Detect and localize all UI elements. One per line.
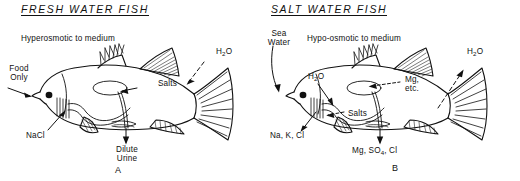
label-mg-so4-cl: Mg, SO4, Cl [352, 146, 397, 155]
osmoregulation-figure: FRESH WATER FISH [0, 0, 520, 181]
panel-letter-b: B [392, 163, 398, 173]
label-dilute-urine-line2: Urine [117, 154, 137, 163]
label-dilute-urine-line1: Dilute [116, 145, 138, 154]
label-sea-water-line1: Sea [271, 29, 286, 38]
label-osmotic-status-fresh: Hyperosmotic to medium [21, 34, 115, 43]
label-dilute-urine: Dilute Urine [105, 145, 149, 164]
h2o-out-sub: 2 [473, 50, 477, 57]
excretion-suffix: , Cl [384, 146, 397, 155]
label-sea-water: Sea Water [260, 29, 298, 48]
h2o-o: O [226, 47, 233, 56]
label-h2o-fresh: H2O [216, 47, 232, 56]
label-h2o-gut-salt: H2O [308, 72, 324, 81]
label-food-only-line2: Only [10, 73, 27, 82]
label-sea-water-line2: Water [268, 38, 290, 47]
h2o-out-o: O [477, 47, 484, 56]
label-food-only-line1: Food [9, 64, 28, 73]
label-salts-fresh: Salts [158, 79, 177, 88]
excretion-sub: 4 [381, 149, 385, 156]
label-na-k-cl: Na, K, Cl [270, 131, 304, 140]
label-h2o-salt: H2O [467, 47, 483, 56]
label-osmotic-status-salt: Hypo-osmotic to medium [307, 34, 401, 43]
label-mg-etc: Mg, etc. [399, 75, 425, 94]
label-salts-salt: Salts [348, 109, 367, 118]
panel-letter-a: A [115, 165, 121, 175]
panel-salt-water-fish: SALT WATER FISH [260, 0, 520, 181]
h2o-gut-sub: 2 [314, 75, 318, 82]
label-mg-etc-line2: etc. [405, 84, 419, 93]
excretion-prefix: Mg, SO [352, 146, 381, 155]
panel-fresh-water-fish: FRESH WATER FISH [0, 0, 260, 181]
h2o-sub: 2 [222, 50, 226, 57]
label-mg-etc-line1: Mg, [405, 75, 419, 84]
label-nacl: NaCl [26, 131, 45, 140]
h2o-gut-o: O [318, 72, 325, 81]
label-food-only: Food Only [4, 64, 34, 83]
